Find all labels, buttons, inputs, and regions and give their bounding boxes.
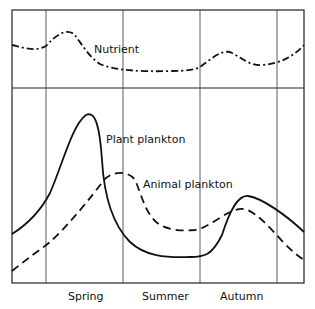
season-label-summer: Summer bbox=[142, 290, 189, 303]
plant-plankton-label: Plant plankton bbox=[106, 133, 185, 146]
season-label-autumn: Autumn bbox=[220, 290, 263, 303]
plankton-seasonal-diagram: Nutrient Plant plankton Animal plankton … bbox=[0, 0, 315, 309]
nutrient-curve bbox=[12, 32, 304, 71]
nutrient-label: Nutrient bbox=[94, 43, 140, 56]
season-label-spring: Spring bbox=[68, 290, 104, 303]
chart-frame bbox=[12, 10, 304, 283]
animal-plankton-label: Animal plankton bbox=[143, 178, 233, 191]
